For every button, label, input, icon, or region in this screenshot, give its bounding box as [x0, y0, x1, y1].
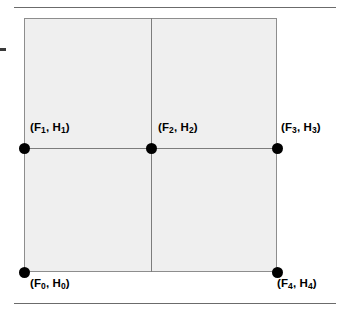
node-label-f0: (F0, H0) [30, 277, 70, 289]
figure-canvas: (F1, H1) (F2, H2) (F3, H3) (F0, H0) (F4,… [0, 0, 339, 311]
node-label-f3-mid: , H [297, 121, 312, 133]
node-label-f2-close: ) [194, 121, 198, 133]
node-label-f1-sub2: 1 [61, 125, 66, 135]
left-margin-tick [0, 48, 6, 51]
node-label-f4-sub1: 4 [288, 281, 293, 291]
node-label-f4-close: ) [313, 277, 317, 289]
node-dot-f0 [19, 267, 30, 278]
node-label-f2-mid: , H [174, 121, 189, 133]
node-label-f1: (F1, H1) [30, 121, 70, 133]
node-label-f1-open: (F [30, 121, 41, 133]
node-label-f0-mid: , H [46, 277, 61, 289]
node-label-f4-open: (F [277, 277, 288, 289]
node-label-f1-mid: , H [46, 121, 61, 133]
node-label-f4: (F4, H4) [277, 277, 317, 289]
node-label-f4-mid: , H [293, 277, 308, 289]
node-label-f0-sub2: 0 [61, 281, 66, 291]
bottom-horizontal-rule [14, 303, 336, 304]
node-dot-f3 [272, 143, 283, 154]
node-label-f2-open: (F [158, 121, 169, 133]
node-label-f0-close: ) [66, 277, 70, 289]
node-label-f3-close: ) [317, 121, 321, 133]
node-label-f2: (F2, H2) [158, 121, 198, 133]
node-label-f0-sub1: 0 [41, 281, 46, 291]
node-dot-f1 [19, 143, 30, 154]
node-label-f3-sub1: 3 [292, 125, 297, 135]
node-label-f2-sub1: 2 [169, 125, 174, 135]
node-label-f2-sub2: 2 [189, 125, 194, 135]
node-label-f1-sub1: 1 [41, 125, 46, 135]
node-dot-f2 [146, 143, 157, 154]
node-label-f3: (F3, H3) [281, 121, 321, 133]
node-label-f0-open: (F [30, 277, 41, 289]
node-label-f4-sub2: 4 [308, 281, 313, 291]
node-label-f3-open: (F [281, 121, 292, 133]
node-label-f3-sub2: 3 [312, 125, 317, 135]
node-label-f1-close: ) [66, 121, 70, 133]
top-horizontal-rule [14, 7, 336, 8]
node-dot-f4 [272, 267, 283, 278]
